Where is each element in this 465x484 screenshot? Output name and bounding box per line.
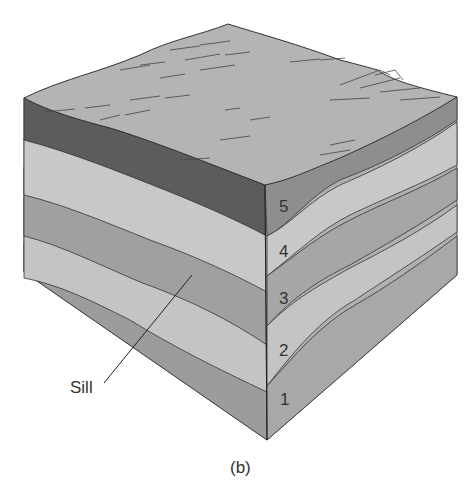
block-diagram xyxy=(0,0,465,484)
figure-caption: (b) xyxy=(230,458,251,478)
sill-label: Sill xyxy=(70,379,93,396)
layer-label-1: 1 xyxy=(280,391,289,408)
layer-label-3: 3 xyxy=(279,290,288,307)
layer-label-5: 5 xyxy=(279,198,288,215)
layer-label-4: 4 xyxy=(279,243,288,260)
layer-label-2: 2 xyxy=(279,342,288,359)
